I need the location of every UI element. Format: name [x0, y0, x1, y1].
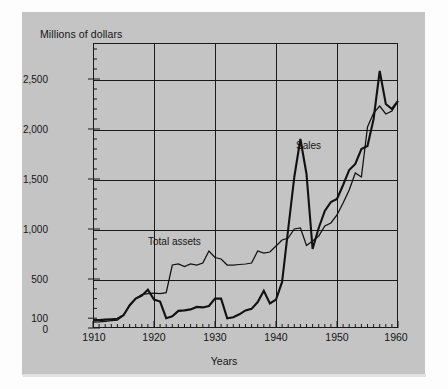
chart-figure: Millions of dollars Years 2,500 2,000 1,…: [0, 0, 448, 389]
series-line-sales: [93, 71, 398, 320]
axis-tick-marks: [88, 49, 398, 328]
chart-curves: [0, 0, 448, 389]
series-line-total-assets: [93, 101, 398, 322]
